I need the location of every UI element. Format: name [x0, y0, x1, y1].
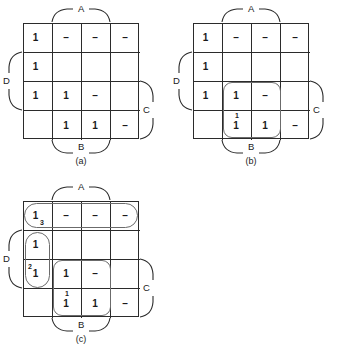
cell-value: 1 — [33, 91, 39, 101]
kmap-b-cell-r3c3[interactable]: – — [252, 82, 281, 111]
kmap-b-cell-r1c4[interactable]: – — [281, 24, 310, 53]
cell-value: – — [92, 211, 98, 221]
cell-value: 1 — [33, 211, 39, 221]
kmap-b-label-D: D — [173, 75, 180, 86]
kmap-b-grid: 1 – – – 1 1 1 – 1 1 – — [193, 23, 309, 139]
kmap-c-cell-r4c4[interactable]: – — [111, 289, 140, 318]
cell-value: – — [63, 211, 69, 221]
kmap-c-label-A: A — [78, 181, 84, 192]
kmap-a-cell-r4c3[interactable]: 1 — [82, 111, 111, 140]
kmap-c-cell-r3c3[interactable]: – — [82, 260, 111, 289]
kmap-c-label-D: D — [3, 253, 10, 264]
cell-value: 1 — [203, 33, 209, 43]
cell-value: 1 — [262, 121, 268, 131]
kmap-a-cell-r4c4[interactable]: – — [111, 111, 140, 140]
cell-value: 1 — [92, 121, 98, 131]
kmap-c-cell-r3c4[interactable] — [111, 260, 140, 289]
kmap-a-cell-r4c2[interactable]: 1 — [53, 111, 82, 140]
cell-value: – — [122, 211, 128, 221]
cell-value: 1 — [33, 62, 39, 72]
kmap-c-group-3-number: 3 — [40, 219, 44, 226]
kmap-c-cell-r2c1[interactable]: 1 — [24, 231, 53, 260]
cell-value: – — [92, 91, 98, 101]
kmap-a-label-C: C — [143, 104, 150, 115]
kmap-b-caption: (b) — [170, 156, 332, 166]
cell-value: 1 — [92, 299, 98, 309]
kmap-a-cell-r3c2[interactable]: 1 — [53, 82, 82, 111]
kmap-c-group-1-number: 1 — [65, 290, 69, 297]
kmap-c-cell-r1c3[interactable]: – — [82, 202, 111, 231]
cell-value: 1 — [233, 91, 239, 101]
kmap-a-cell-r1c4[interactable]: – — [111, 24, 140, 53]
kmap-c-cell-r1c1[interactable]: 1 — [24, 202, 53, 231]
cell-value: – — [262, 91, 268, 101]
kmap-b-label-A: A — [248, 3, 254, 14]
kmap-a-cell-r3c4[interactable] — [111, 82, 140, 111]
kmap-b-cell-r1c2[interactable]: – — [223, 24, 252, 53]
kmap-a-cell-r3c1[interactable]: 1 — [24, 82, 53, 111]
cell-value: 1 — [63, 121, 69, 131]
kmap-b-cell-r1c3[interactable]: – — [252, 24, 281, 53]
cell-value: 1 — [63, 91, 69, 101]
kmap-c-cell-r2c2[interactable] — [53, 231, 82, 260]
kmap-a-label-B: B — [78, 141, 84, 152]
kmap-c-label-C: C — [143, 282, 150, 293]
kmap-a-cell-r2c4[interactable] — [111, 53, 140, 82]
kmap-c-cell-r4c3[interactable]: 1 — [82, 289, 111, 318]
cell-value: – — [262, 33, 268, 43]
kmap-c-group-2-number: 2 — [28, 263, 32, 270]
cell-value: – — [122, 33, 128, 43]
kmap-b-cell-r2c3[interactable] — [252, 53, 281, 82]
kmap-b-cell-r2c4[interactable] — [281, 53, 310, 82]
kmap-a-label-D: D — [3, 75, 10, 86]
kmap-a-cell-r2c2[interactable] — [53, 53, 82, 82]
kmap-a-cell-r1c1[interactable]: 1 — [24, 24, 53, 53]
cell-value: – — [92, 269, 98, 279]
kmap-b-grid-wrap: 1 – – – 1 1 1 – 1 1 – 1 A — [193, 23, 309, 139]
cell-value: 1 — [33, 269, 39, 279]
cell-value: 1 — [33, 33, 39, 43]
kmap-b-cell-r4c3[interactable]: 1 — [252, 111, 281, 140]
cell-value: 1 — [63, 269, 69, 279]
kmap-c-grid-wrap: 1 – – – 1 1 1 – 1 1 – 3 2 1 — [23, 201, 139, 317]
kmap-b-cell-r2c2[interactable] — [223, 53, 252, 82]
kmap-c-cell-r2c4[interactable] — [111, 231, 140, 260]
kmap-c-caption: (c) — [0, 334, 162, 344]
kmap-b-cell-r1c1[interactable]: 1 — [194, 24, 223, 53]
kmap-c-cell-r1c2[interactable]: – — [53, 202, 82, 231]
kmap-b-cell-r4c4[interactable]: – — [281, 111, 310, 140]
kmap-c-label-B: B — [78, 319, 84, 330]
kmap-a-cell-r1c3[interactable]: – — [82, 24, 111, 53]
kmap-b-cell-r3c4[interactable] — [281, 82, 310, 111]
cell-value: – — [292, 121, 298, 131]
kmap-b-cell-r2c1[interactable]: 1 — [194, 53, 223, 82]
cell-value: 1 — [203, 91, 209, 101]
kmap-b-cell-r4c1[interactable] — [194, 111, 223, 140]
cell-value: – — [92, 33, 98, 43]
cell-value: – — [122, 121, 128, 131]
kmap-a-caption: (a) — [0, 156, 162, 166]
kmap-a-cell-r3c3[interactable]: – — [82, 82, 111, 111]
cell-value: – — [122, 299, 128, 309]
cell-value: 1 — [233, 121, 239, 131]
kmap-b-label-C: C — [313, 104, 320, 115]
kmap-b-cell-r3c2[interactable]: 1 — [223, 82, 252, 111]
kmap-c-cell-r3c2[interactable]: 1 — [53, 260, 82, 289]
cell-value: – — [233, 33, 239, 43]
cell-value: 1 — [33, 240, 39, 250]
cell-value: – — [63, 33, 69, 43]
kmap-a-cell-r1c2[interactable]: – — [53, 24, 82, 53]
kmap-b-cell-r3c1[interactable]: 1 — [194, 82, 223, 111]
kmap-a-grid: 1 – – – 1 1 1 – 1 1 – — [23, 23, 139, 139]
kmap-c-cell-r4c1[interactable] — [24, 289, 53, 318]
kmap-b-group-1-number: 1 — [235, 112, 239, 119]
cell-value: 1 — [63, 299, 69, 309]
cell-value: – — [292, 33, 298, 43]
kmap-c-cell-r1c4[interactable]: – — [111, 202, 140, 231]
kmap-a-label-A: A — [78, 3, 84, 14]
cell-value: 1 — [203, 62, 209, 72]
kmap-a-cell-r2c3[interactable] — [82, 53, 111, 82]
kmap-a-cell-r2c1[interactable]: 1 — [24, 53, 53, 82]
kmap-c-cell-r2c3[interactable] — [82, 231, 111, 260]
kmap-a-cell-r4c1[interactable] — [24, 111, 53, 140]
